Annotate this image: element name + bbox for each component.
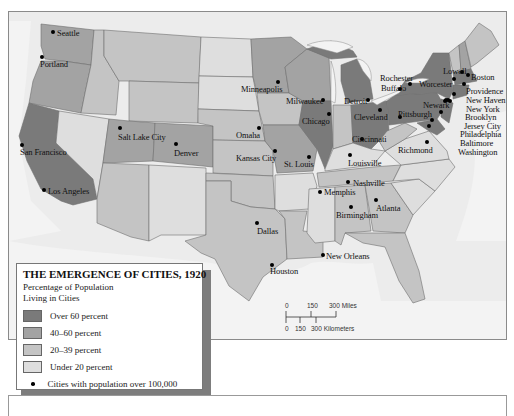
scale-km-0: 0 [285,325,289,332]
legend-label: Cities with population over 100,000 [48,379,178,389]
legend-item-under-20: Under 20 percent [23,359,196,375]
city-label: Kansas City [236,154,276,163]
city-label: Pittsburgh [398,110,432,119]
legend-title: THE EMERGENCE OF CITIES, 1920 [23,268,196,280]
city-label: Seattle [57,29,79,38]
city-label: Cleveland [354,113,388,122]
city-label: Birmingham [336,211,378,220]
city-label: Milwaukee [286,97,323,106]
city-dot-icon [444,98,448,102]
scale-bar: 0 150 300 Miles 0 150 300 Kilometers [283,302,393,334]
city-dot-icon [346,180,350,184]
city-label: Richmond [398,146,433,155]
city-dot-icon [318,190,322,194]
city-dot-icon [439,110,443,114]
legend-label: Under 20 percent [50,362,112,372]
scale-km-300: 300 Kilometers [311,325,354,332]
city-dot-icon [255,221,259,225]
legend-subtitle-line1: Percentage of Population [23,282,196,293]
city-dot-icon [452,77,456,81]
city-dot-icon [174,142,178,146]
legend-swatch-under-20 [23,361,42,373]
city-label: Minneapolis [241,85,282,94]
state-north-dakota [199,37,253,77]
city-dot-icon [321,253,325,257]
legend-swatch-over-60 [23,310,42,322]
city-label: Salt Lake City [118,133,166,142]
bottom-panel [8,395,507,416]
city-dot-icon [448,99,452,103]
map-legend: THE EMERGENCE OF CITIES, 1920 Percentage… [16,263,203,390]
legend-item-20-39: 20–39 percent [23,342,196,358]
state-wyoming [129,81,199,123]
city-label: Boston [471,73,495,82]
city-label: Washington [458,148,497,157]
city-label: Atlanta [376,204,400,213]
city-label: Rochester [380,74,413,83]
legend-subtitle-line2: Living in Cities [23,293,196,304]
city-label: Memphis [324,188,355,197]
city-label: Detroit [344,97,367,106]
state-new-mexico [149,165,206,241]
city-dot-icon [427,124,431,128]
scale-ruler [285,310,355,324]
city-dot-icon [466,73,470,77]
legend-label: 40–60 percent [50,328,101,338]
state-montana [104,30,201,83]
city-dot-icon [349,205,353,209]
legend-label: Over 60 percent [50,311,108,321]
city-label: Omaha [236,131,260,140]
city-dot-icon [51,30,55,34]
city-label: Worcester [419,80,452,89]
city-label: Louisville [348,159,381,168]
city-label: Dallas [257,227,278,236]
city-dot-icon [374,198,378,202]
city-label: Cincinnati [352,135,386,144]
state-colorado [153,123,213,167]
city-label: Portland [40,60,68,69]
city-label: New Orleans [326,252,370,261]
city-label: San Francisco [20,148,67,157]
city-label: Los Angeles [48,187,89,196]
city-label: Houston [270,267,298,276]
city-dot-icon [452,92,456,96]
city-label: Denver [174,149,198,158]
scale-km-150: 150 [295,325,306,332]
legend-item-city-marker: Cities with population over 100,000 [23,376,196,392]
scale-mile-0: 0 [285,302,289,309]
legend-swatch-20-39 [23,344,42,356]
scale-mile-150: 150 [307,302,318,309]
city-dot-icon [425,140,429,144]
city-dot-icon [31,382,35,386]
city-label: Buffalo [381,84,406,93]
city-label: Nashville [353,179,385,188]
legend-item-over-60: Over 60 percent [23,308,196,324]
legend-label: 20–39 percent [50,345,101,355]
city-dot-icon [348,153,352,157]
legend-swatch-40-60 [23,327,42,339]
city-label: Chicago [302,117,330,126]
city-dot-icon [42,188,46,192]
city-label: Lowell [443,67,466,76]
city-label: St. Louis [284,160,314,169]
legend-item-40-60: 40–60 percent [23,325,196,341]
city-dot-icon [118,126,122,130]
scale-mile-300: 300 Miles [329,302,357,309]
state-indiana [333,105,353,149]
